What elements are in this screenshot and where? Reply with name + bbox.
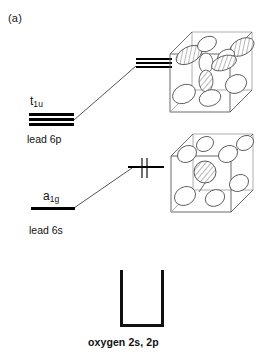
level-symbol-t1u: t1u [30, 94, 43, 108]
level-bar [29, 118, 74, 121]
band-label-oxygen: oxygen 2s, 2p [88, 336, 159, 348]
figure-canvas: (a) t1u lead 6p a1g lead 6s [0, 0, 265, 363]
oxygen-band-box [120, 270, 164, 327]
s-orbital-sphere [194, 161, 216, 183]
electron-pair-arrows [128, 156, 168, 184]
orbital-label-lead-6p: lead 6p [27, 133, 61, 145]
level-bars-a1g [31, 207, 75, 210]
orbital-label-lead-6s: lead 6s [29, 224, 63, 236]
level-symbol-a1g-main: a [43, 189, 50, 203]
level-bar [29, 113, 74, 116]
s-orbital-cube [163, 126, 263, 224]
level-symbol-a1g: a1g [43, 189, 59, 203]
level-symbol-a1g-sub: 1g [50, 194, 60, 204]
level-bar [29, 123, 74, 126]
level-symbol-t1u-sub: 1u [33, 99, 43, 109]
level-bar [31, 207, 75, 210]
p-orbital-cube [160, 22, 264, 124]
level-bars-t1u [29, 113, 74, 126]
